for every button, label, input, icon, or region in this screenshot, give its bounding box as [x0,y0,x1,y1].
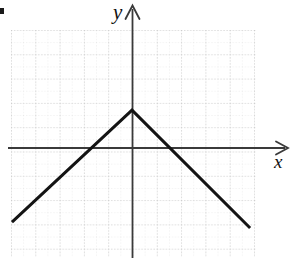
grid-layer [11,30,256,257]
x-axis-label: x [274,152,282,171]
item-bullet-marker [0,8,4,14]
coordinate-plane [0,0,296,260]
graph-figure: y x [0,0,296,260]
y-axis-label: y [113,2,122,23]
